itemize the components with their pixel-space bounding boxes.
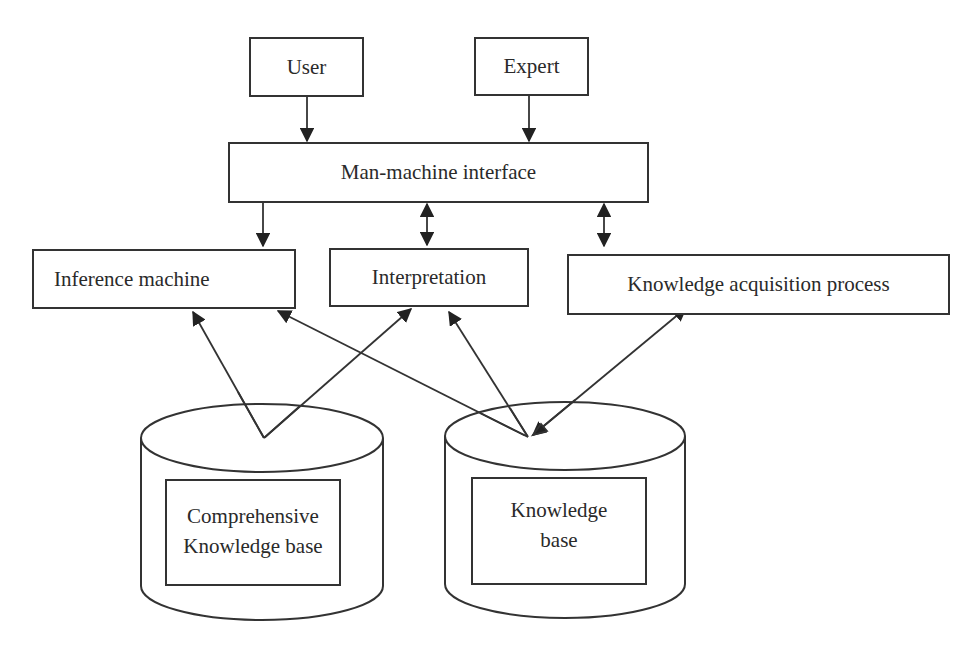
interpretation-box: Interpretation (329, 248, 529, 307)
user-box: User (249, 37, 364, 97)
kb-line1: Knowledge (473, 495, 645, 525)
inference-machine-box: Inference machine (32, 249, 296, 309)
comprehensive-kb-line2: Knowledge base (167, 531, 339, 561)
knowledge-base-box: Knowledge base (471, 477, 647, 585)
man-machine-interface-box: Man-machine interface (228, 142, 649, 203)
expert-label: Expert (504, 54, 560, 79)
man-machine-interface-label: Man-machine interface (341, 160, 536, 185)
knowledge-acquisition-process-label: Knowledge acquisition process (627, 272, 889, 297)
comprehensive-knowledge-base-box: Comprehensive Knowledge base (165, 479, 341, 586)
interpretation-label: Interpretation (372, 265, 486, 290)
kb-line2: base (473, 525, 645, 555)
user-label: User (287, 55, 327, 80)
comprehensive-kb-line1: Comprehensive (167, 501, 339, 531)
inference-machine-label: Inference machine (54, 267, 210, 292)
expert-box: Expert (474, 37, 589, 96)
knowledge-acquisition-process-box: Knowledge acquisition process (567, 254, 950, 315)
